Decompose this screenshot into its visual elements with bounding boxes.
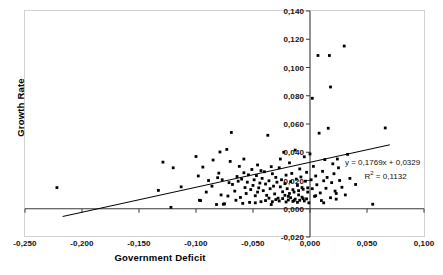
trendline-equation-annotation: y = 0,1769x + 0,0329 R2 = 0,1132	[345, 157, 420, 182]
x-axis-tick-label: -0,150	[127, 239, 150, 248]
x-axis-tick-label: 0,100	[414, 239, 435, 248]
y-axis-tick-label: 0,120	[283, 35, 304, 44]
y-axis-tick-label: 0,140	[283, 7, 304, 16]
y-axis-tick-label: 0,060	[283, 120, 304, 129]
y-axis-tick-label: 0,080	[283, 91, 304, 100]
r-squared-value: = 0,1132	[374, 172, 407, 181]
y-axis-title: Growth Rate	[15, 48, 26, 168]
y-axis-tick-label: 0,020	[283, 176, 304, 185]
scatter-chart-figure: 0,1400,1200,1000,0800,0600,0400,0200,000…	[0, 0, 443, 275]
y-axis-tick-label: 0,040	[283, 148, 304, 157]
y-axis-tick-label: 0,000	[283, 204, 304, 213]
x-axis-tick-label: -0,050	[241, 239, 264, 248]
trendline-r-squared-text: R2 = 0,1132	[345, 168, 420, 182]
x-axis-title: Government Deficit	[0, 252, 320, 263]
x-axis-tick-label: 0,000	[300, 239, 321, 248]
x-axis-tick-label: -0,100	[184, 239, 207, 248]
x-axis-tick-label: -0,200	[70, 239, 93, 248]
trendline-equation-text: y = 0,1769x + 0,0329	[345, 157, 420, 168]
x-axis-tick-label: 0,050	[357, 239, 378, 248]
plot-area-frame	[24, 10, 425, 237]
y-axis-tick-label: 0,100	[283, 63, 304, 72]
x-axis-tick-label: -0,250	[13, 239, 36, 248]
